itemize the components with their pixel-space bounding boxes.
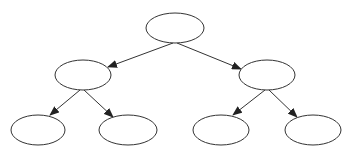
- node-ellipse: [239, 60, 295, 90]
- nodes-group: [11, 13, 341, 145]
- node-ellipse: [55, 60, 111, 90]
- node-ellipse: [11, 115, 65, 145]
- node-right-left: [193, 115, 249, 145]
- node-left-right: [99, 115, 157, 145]
- node-left-left: [11, 115, 65, 145]
- edge-root-to-right: [177, 43, 241, 69]
- node-ellipse: [146, 13, 204, 43]
- node-right-right: [285, 115, 341, 145]
- edge-left-to-left-right: [84, 90, 113, 117]
- node-ellipse: [285, 115, 341, 145]
- node-right: [239, 60, 295, 90]
- edge-right-to-right-right: [269, 90, 297, 117]
- node-root: [146, 13, 204, 43]
- edge-right-to-right-left: [233, 90, 265, 115]
- node-ellipse: [193, 115, 249, 145]
- edge-left-to-left-left: [50, 90, 80, 115]
- node-left: [55, 60, 111, 90]
- tree-diagram: [0, 0, 350, 159]
- edge-root-to-left: [108, 43, 173, 67]
- node-ellipse: [99, 115, 157, 145]
